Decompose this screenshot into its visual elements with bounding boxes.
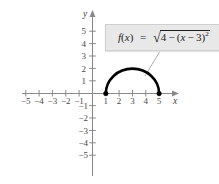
x-tick-label: −5: [21, 96, 31, 106]
x-tick-label: −2: [61, 96, 71, 106]
function-curve: [106, 69, 159, 94]
y-tick-label: 3: [82, 51, 87, 61]
y-tick-label: −3: [78, 126, 88, 136]
function-graph-figure: −5 −4 −3 −2 −1 1 2 3 4 5 5 4 3 2 1 −1 −2…: [0, 0, 219, 184]
formula-exponent: 2: [205, 30, 209, 38]
x-axis-label: x: [172, 96, 178, 106]
radicand-a: 4: [161, 31, 167, 43]
x-tick-label: 1: [104, 96, 109, 106]
x-tick-label: −4: [34, 96, 44, 106]
y-tick-label: 2: [82, 64, 87, 74]
formula-radicand: 4 − (x − 3)2: [160, 30, 210, 43]
endpoint-dot-left: [103, 91, 108, 96]
x-tick-label: 3: [130, 96, 135, 106]
x-tick-label: 5: [157, 96, 162, 106]
y-axis-label: y: [82, 9, 88, 19]
x-tick-label: 2: [117, 96, 122, 106]
y-axis-arrow: [90, 10, 96, 17]
y-tick-label: −2: [78, 113, 88, 123]
formula-callout-box: f(x) = √4 − (x − 3)2: [105, 24, 219, 51]
y-tick-label: 5: [82, 26, 87, 36]
y-tick-label: −4: [78, 138, 88, 148]
endpoint-dot-right: [157, 91, 162, 96]
x-tick-label: 4: [144, 96, 149, 106]
y-tick-label: 4: [82, 39, 87, 49]
x-tick-label: −3: [48, 96, 58, 106]
formula-text: f(x) = √4 − (x − 3)2: [118, 30, 210, 45]
radicand-minus: −: [168, 31, 174, 43]
formula-sqrt: √4 − (x − 3)2: [153, 30, 210, 45]
y-tick-label: −1: [78, 101, 88, 111]
y-tick-label: 1: [82, 76, 87, 86]
group-var: x: [181, 31, 186, 43]
x-tick-labels: −5 −4 −3 −2 −1 1 2 3 4 5: [21, 96, 162, 106]
y-tick-label: −5: [78, 150, 88, 160]
group-minus: −: [188, 31, 194, 43]
